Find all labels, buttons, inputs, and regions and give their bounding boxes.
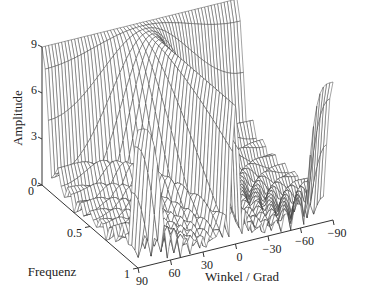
frequency-tick-mark: [85, 227, 90, 228]
z-tick-mark: [38, 45, 42, 47]
z-tick-label: 3: [31, 129, 37, 143]
z-tick-mark: [38, 91, 42, 93]
angle-tick-mark: [333, 220, 334, 225]
angle-tick-label: −90: [328, 226, 347, 240]
frequency-tick-mark: [37, 185, 42, 186]
surface-mesh: [42, 0, 333, 258]
z-tick-label: 6: [31, 83, 37, 97]
frequency-tick-label: 0.5: [67, 226, 82, 240]
angle-tick-label: 60: [169, 266, 181, 280]
angle-tick-mark: [236, 244, 237, 249]
frequency-tick-label: 1: [124, 267, 130, 281]
z-axis-label: Amplitude: [10, 90, 25, 146]
z-tick-mark: [38, 137, 42, 139]
z-tick-label: 9: [31, 37, 37, 51]
angle-tick-label: 0: [237, 250, 243, 264]
angle-tick-mark: [301, 228, 302, 233]
frequency-tick-mark: [133, 268, 138, 269]
angle-tick-mark: [138, 268, 139, 273]
angle-tick-mark: [268, 236, 269, 241]
frequency-tick-label: 0: [28, 184, 34, 198]
frequency-axis-label: Frequenz: [28, 264, 77, 279]
angle-axis-label: Winkel / Grad: [205, 269, 279, 284]
angle-tick-mark: [203, 252, 204, 257]
angle-tick-label: −30: [263, 242, 282, 256]
angle-tick-mark: [171, 260, 172, 265]
surface-plot: 036900.519060300−30−60−90 Amplitude Freq…: [0, 0, 378, 296]
angle-tick-label: −60: [295, 234, 314, 248]
angle-tick-label: 90: [136, 274, 148, 288]
